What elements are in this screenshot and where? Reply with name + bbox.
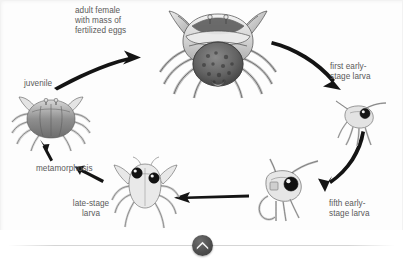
adult-female-crab-illustration: [152, 2, 284, 102]
label-first-early-stage-larva: first early- stage larva: [330, 62, 396, 82]
juvenile-crab-illustration: [8, 92, 94, 154]
diagram-canvas: .ink{fill:#141414;}: [0, 0, 403, 262]
label-fifth-early-stage-larva: fifth early- stage larva: [329, 199, 397, 219]
label-late-stage-larva: late-stage larva: [61, 199, 121, 219]
label-juvenile: juvenile: [24, 79, 72, 89]
label-metamorphosis: metamorphosis: [36, 164, 114, 174]
fifth-early-stage-larva-illustration: [252, 158, 322, 222]
arrow-fifth-to-late-stage: [174, 192, 249, 203]
collapse-button[interactable]: [192, 235, 213, 256]
label-adult-female: adult female with mass of fertilized egg…: [75, 6, 147, 37]
first-early-stage-larva-illustration: [333, 94, 389, 146]
chevron-up-icon: [196, 241, 209, 250]
